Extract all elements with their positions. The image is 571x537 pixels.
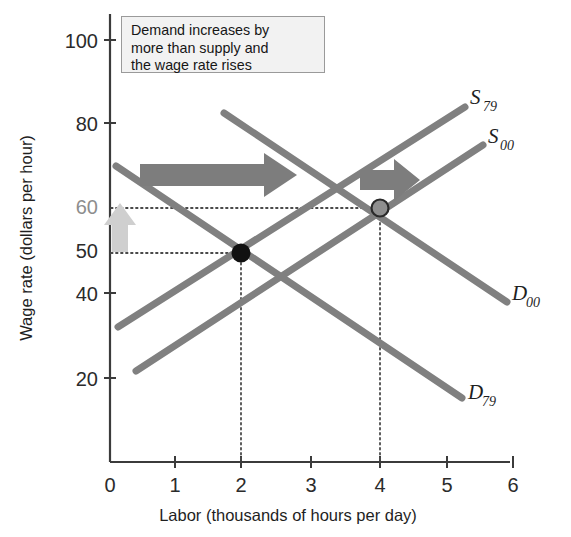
supply-demand-plot: 100 80 60 50 40 20 0 1 2 3 4 5 6 Labor (…: [0, 0, 571, 537]
chart-figure: 100 80 60 50 40 20 0 1 2 3 4 5 6 Labor (…: [0, 0, 571, 537]
y-axis-title: Wage rate (dollars per hour): [17, 135, 35, 341]
y-ticklabel-50: 50: [76, 240, 98, 262]
curve-label-d79-base: D: [467, 380, 483, 404]
x-ticklabel-4: 4: [374, 474, 385, 496]
x-ticklabel-3: 3: [305, 474, 316, 496]
equilibrium-point-2000: [372, 200, 389, 217]
curve-label-d00-sub: 00: [526, 295, 540, 310]
note-line-2: more than supply and: [131, 40, 316, 58]
curve-label-s00-sub: 00: [500, 138, 514, 153]
annotation-note-box: Demand increases by more than supply and…: [121, 16, 325, 73]
curve-label-s79-base: S: [470, 85, 481, 109]
curve-label-s79: S 79: [470, 85, 497, 114]
y-ticklabel-40: 40: [76, 283, 98, 305]
y-ticklabel-100: 100: [65, 30, 98, 52]
x-ticklabel-2: 2: [235, 474, 246, 496]
x-ticklabel-0: 0: [104, 474, 115, 496]
curve-label-d79: D 79: [467, 380, 496, 409]
equilibrium-point-1979: [232, 244, 251, 263]
curve-label-d00-base: D: [511, 281, 527, 305]
y-ticklabel-60: 60: [76, 196, 98, 218]
curve-label-d00: D 00: [511, 281, 540, 310]
demand-curve-1979: [116, 166, 462, 398]
supply-curve-1979: [118, 107, 465, 327]
y-ticklabel-20: 20: [76, 368, 98, 390]
x-axis-title: Labor (thousands of hours per day): [159, 506, 417, 524]
x-ticklabel-6: 6: [507, 474, 518, 496]
note-line-1: Demand increases by: [131, 22, 316, 40]
x-ticklabel-1: 1: [169, 474, 180, 496]
wage-rise-arrow: [104, 203, 136, 252]
demand-shift-arrow: [140, 153, 297, 197]
note-line-3: the wage rate rises: [131, 57, 316, 75]
curve-label-s00-base: S: [488, 124, 499, 148]
x-ticklabel-5: 5: [441, 474, 452, 496]
y-ticklabel-80: 80: [76, 113, 98, 135]
curve-label-s00: S 00: [488, 124, 514, 153]
curve-label-s79-sub: 79: [483, 99, 497, 114]
curve-label-d79-sub: 79: [482, 394, 496, 409]
